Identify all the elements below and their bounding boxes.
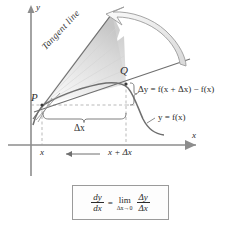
point-label-q: Q (120, 65, 128, 76)
formula-row: dy dx = lim Δx→0 Δy Δx (91, 192, 150, 213)
limit-subscript: Δx→0 (117, 205, 133, 211)
dy-numerator: dy (91, 192, 104, 203)
derivative-formula-box: dy dx = lim Δx→0 Δy Δx (72, 185, 169, 220)
limit-operator: lim Δx→0 (117, 195, 133, 211)
curve-equation-label: y = f(x) (158, 113, 186, 122)
point-marker-P (40, 103, 43, 106)
delta-x-brace (43, 113, 126, 123)
point-label-p: P (31, 92, 38, 103)
delta-y-numerator: Δy (137, 192, 150, 203)
dx-denominator: dx (91, 203, 104, 213)
dy-dx-fraction: dy dx (91, 192, 104, 213)
x-tick-label-right: x + Δx (108, 148, 132, 157)
curve-label-leader (147, 118, 155, 123)
equals-sign: = (108, 198, 113, 208)
derivative-diagram: Tangent line P Q y x x x + Δx Δx Δy = f(… (0, 0, 239, 227)
delta-x-denominator: Δx (137, 203, 150, 213)
x-tick-label-left: x (40, 148, 44, 157)
delta-y-equation-label: Δy = f(x + Δx) − f(x) (138, 85, 214, 94)
y-axis-label: y (36, 3, 40, 12)
delta-y-delta-x-fraction: Δy Δx (137, 192, 150, 213)
limit-text: lim (117, 195, 133, 205)
point-marker-Q (124, 82, 127, 85)
x-axis-label: x (192, 131, 196, 140)
delta-x-label: Δx (74, 124, 85, 134)
